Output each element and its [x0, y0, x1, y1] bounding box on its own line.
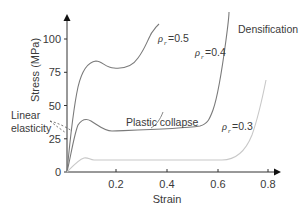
curve-rho-0.4	[67, 12, 229, 172]
annotation-plastic-collapse: Plastic collapse	[126, 116, 199, 128]
svg-text:r: r	[228, 127, 231, 135]
x-tick-0.6: 0.6	[210, 178, 225, 190]
svg-text:r: r	[201, 53, 204, 61]
svg-text:=0.3: =0.3	[232, 120, 253, 132]
y-tick-25: 25	[49, 133, 61, 145]
svg-text:ρ: ρ	[157, 33, 163, 44]
y-tick-50: 50	[49, 100, 61, 112]
annotation-densification: Densification	[238, 23, 298, 35]
y-tick-100: 100	[43, 33, 61, 45]
y-axis-title: Stress (MPa)	[29, 38, 41, 102]
linear-elasticity-leader	[50, 121, 72, 133]
label-rho-0.5: ρ r =0.5	[157, 32, 189, 47]
y-tick-75: 75	[49, 66, 61, 78]
svg-text:r: r	[164, 39, 167, 47]
x-axis-arrow-icon	[274, 169, 281, 176]
y-axis-arrow-icon	[64, 14, 71, 21]
stress-strain-chart: 0 25 50 75 100 0.2 0.4 0.6 0.8 Strain St…	[0, 0, 302, 210]
x-tick-0.4: 0.4	[159, 178, 174, 190]
svg-text:=0.5: =0.5	[168, 32, 189, 44]
y-tick-labels: 0 25 50 75 100	[43, 33, 61, 178]
label-rho-0.3: ρ r =0.3	[221, 120, 253, 135]
annotation-linear-line2: elasticity	[11, 122, 52, 134]
x-tick-labels: 0.2 0.4 0.6 0.8	[108, 178, 275, 190]
svg-text:ρ: ρ	[194, 47, 200, 58]
annotation-linear-line1: Linear	[11, 109, 41, 121]
curve-rho-0.5	[67, 24, 159, 172]
svg-text:=0.4: =0.4	[205, 46, 226, 58]
label-rho-0.4: ρ r =0.4	[194, 46, 226, 61]
x-axis-title: Strain	[153, 193, 182, 205]
y-tick-0: 0	[55, 166, 61, 178]
x-tick-0.2: 0.2	[108, 178, 123, 190]
x-tick-0.8: 0.8	[260, 178, 275, 190]
svg-text:ρ: ρ	[221, 121, 227, 132]
